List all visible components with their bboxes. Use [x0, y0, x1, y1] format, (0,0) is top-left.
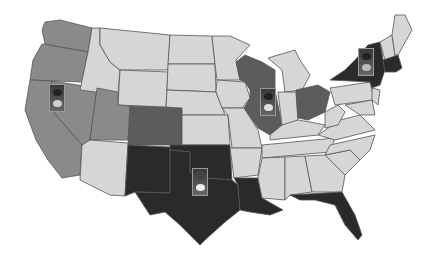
traffic-light-icon-south: [192, 168, 208, 196]
state-fl: [290, 192, 362, 240]
state-sd: [167, 64, 216, 92]
state-az: [80, 140, 128, 196]
state-ks: [182, 115, 230, 145]
traffic-light-icon-northeast: [358, 48, 374, 76]
state-nm: [125, 145, 170, 196]
state-me: [392, 15, 412, 55]
state-in: [278, 92, 298, 125]
traffic-light-icon-west: [49, 84, 65, 112]
state-wy: [118, 70, 168, 107]
state-ar: [230, 148, 262, 178]
us-choropleth-map: [0, 0, 432, 263]
state-ia: [216, 80, 250, 108]
traffic-light-icon-midwest: [260, 88, 276, 116]
state-nj: [372, 88, 380, 105]
state-nd: [168, 35, 215, 64]
state-co: [128, 106, 182, 145]
state-ms: [258, 157, 285, 200]
